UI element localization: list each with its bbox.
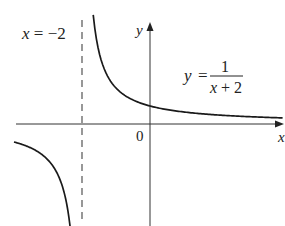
y-axis-arrow-icon: [147, 22, 154, 31]
graph-canvas: x = −2 y x 0 y = 1 x + 2: [0, 0, 285, 226]
equation-denominator: x + 2: [209, 79, 242, 96]
equation-label: y = 1 x + 2: [182, 58, 243, 96]
equation-equals: =: [198, 66, 208, 85]
equation-numerator: 1: [221, 58, 229, 75]
asymptote-label: x = −2: [21, 24, 66, 43]
curve-left-branch: [14, 142, 73, 226]
origin-label: 0: [136, 128, 144, 144]
x-axis-label: x: [277, 129, 285, 145]
y-axis-label: y: [134, 22, 143, 38]
x-axis-arrow-icon: [275, 121, 284, 128]
equation-lhs: y: [182, 66, 192, 85]
